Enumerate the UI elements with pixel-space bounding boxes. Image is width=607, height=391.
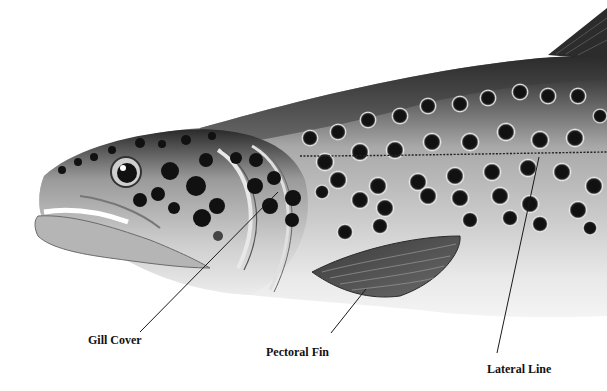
label-gill-cover: Gill Cover xyxy=(88,333,142,348)
trout-diagram: Gill Cover Pectoral Fin Lateral Line xyxy=(0,0,607,391)
label-pectoral-fin: Pectoral Fin xyxy=(266,345,329,360)
label-lateral-line: Lateral Line xyxy=(487,362,551,377)
